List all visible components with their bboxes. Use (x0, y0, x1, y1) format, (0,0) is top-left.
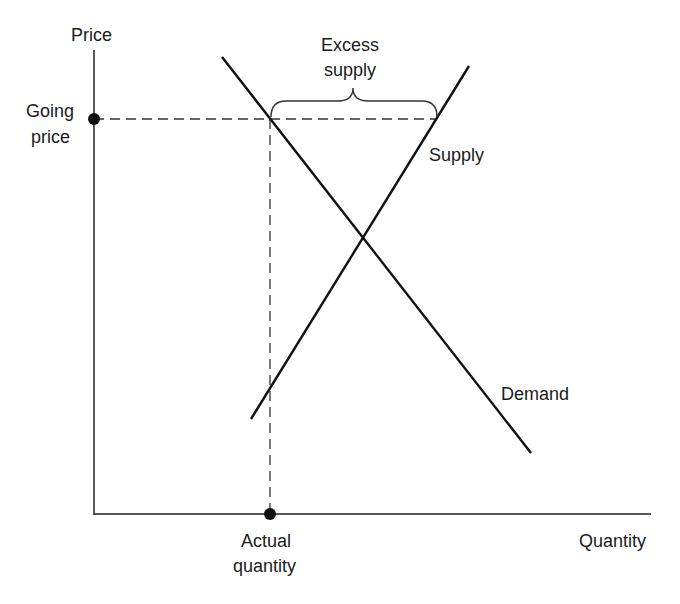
actual-quantity-dot (264, 508, 276, 520)
y-axis-label: Price (71, 24, 112, 46)
excess-supply-label-line1: Excess (321, 34, 379, 56)
demand-curve (222, 57, 531, 453)
actual-quantity-label-line2: quantity (233, 555, 296, 577)
excess-supply-brace (271, 88, 437, 117)
going-price-label-line1: Going (26, 100, 74, 122)
actual-quantity-label-line1: Actual (241, 530, 291, 552)
supply-demand-diagram (0, 0, 680, 604)
x-axis-label: Quantity (579, 530, 646, 552)
supply-curve-label: Supply (429, 144, 484, 166)
going-price-label-line2: price (31, 126, 70, 148)
excess-supply-label-line2: supply (324, 59, 376, 81)
demand-curve-label: Demand (501, 383, 569, 405)
going-price-dot (88, 113, 100, 125)
